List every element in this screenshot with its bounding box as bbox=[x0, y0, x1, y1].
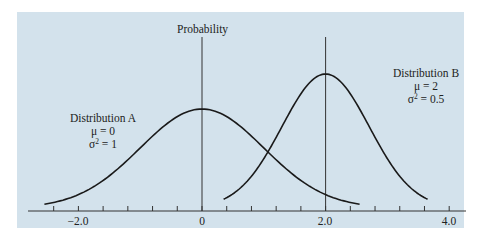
x-axis bbox=[28, 206, 466, 211]
legend-distribution-b: Distribution B μ = 2 σ2 = 0.5 bbox=[384, 67, 468, 105]
dist-b-variance: σ2 = 0.5 bbox=[384, 93, 468, 105]
dist-a-title: Distribution A bbox=[58, 112, 148, 124]
dist-b-mean: μ = 2 bbox=[384, 80, 468, 92]
tick-label-2: 2.0 bbox=[310, 215, 340, 227]
tick-label-0: 0 bbox=[187, 215, 217, 227]
y-axis-label: Probability bbox=[177, 23, 228, 35]
dist-b-title: Distribution B bbox=[384, 67, 468, 79]
tick-label-neg2: −2.0 bbox=[63, 215, 93, 227]
legend-distribution-a: Distribution A μ = 0 σ2 = 1 bbox=[58, 112, 148, 150]
dist-a-variance: σ2 = 1 bbox=[58, 138, 148, 150]
tick-label-4: 4.0 bbox=[434, 215, 464, 227]
dist-a-mean: μ = 0 bbox=[58, 125, 148, 137]
